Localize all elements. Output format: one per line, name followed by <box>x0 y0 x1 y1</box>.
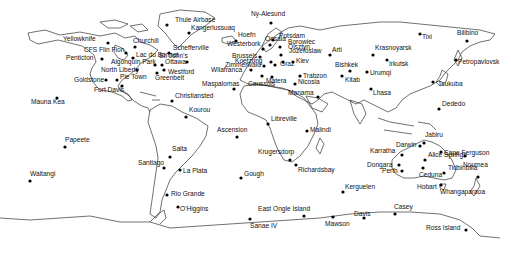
station-label: Darwin <box>396 141 417 148</box>
station-label: Noumea <box>463 161 488 168</box>
station-label: Whangaparaoa <box>440 188 485 196</box>
station-label: Rio Grande <box>171 190 205 197</box>
station-label: Tsukuba <box>438 80 463 87</box>
station-marker: Fort Davis <box>94 84 125 93</box>
station-dot <box>104 78 107 81</box>
station-label: Christiansted <box>175 92 214 99</box>
station-label: Kourou <box>189 106 211 113</box>
station-marker: Kourou <box>184 106 210 119</box>
station-label: Irkutsk <box>389 60 409 67</box>
station-marker: Lhasa <box>369 87 391 96</box>
stations: Thule AirbaseNy-AlesundKangerlussuaqHoef… <box>28 10 500 232</box>
station-label: Davis <box>354 210 371 217</box>
station-dot <box>423 158 426 161</box>
station-label: O'Higgins <box>180 205 209 213</box>
coast-arctic-islands <box>100 20 148 32</box>
station-label: Churchill <box>133 37 159 44</box>
station-label: Libreville <box>271 115 297 122</box>
station-label: Ceduna <box>419 171 442 178</box>
station-marker: Nicosia <box>293 78 320 86</box>
station-marker: Ceduna <box>419 166 442 178</box>
station-dot <box>133 45 136 48</box>
station-dot <box>165 193 168 196</box>
station-dot <box>260 74 263 77</box>
station-marker: Sanae IV <box>248 217 277 229</box>
station-marker: Waitangi <box>28 170 56 183</box>
coast-caribbean <box>140 92 160 100</box>
station-marker: Hobart <box>417 183 443 190</box>
station-dot <box>232 87 235 90</box>
station-label: Jozefoslaw <box>289 47 322 54</box>
station-label: Jabiru <box>425 131 443 138</box>
station-label: Lhasa <box>373 89 391 96</box>
station-dot <box>418 144 421 147</box>
station-dot <box>463 154 466 157</box>
station-dot <box>316 95 319 98</box>
station-label: Sanae IV <box>250 222 278 229</box>
station-dot <box>28 179 31 182</box>
station-marker: Maspalomas <box>202 80 240 91</box>
station-marker: Goldstone <box>74 76 108 83</box>
station-label: Richardsbay <box>298 166 335 174</box>
station-dot <box>439 183 442 186</box>
station-label: Waitangi <box>30 170 56 178</box>
station-dot <box>365 70 368 73</box>
station-dot <box>269 60 272 63</box>
station-dot <box>168 155 171 158</box>
station-marker: Ascension <box>217 126 248 139</box>
station-dot <box>431 80 434 83</box>
station-marker: Petropavlovsk <box>454 58 500 66</box>
station-label: Arti <box>332 46 342 53</box>
coast-india <box>350 100 366 124</box>
station-label: Salta <box>172 145 187 152</box>
station-dot <box>465 39 468 42</box>
station-label: Tixi <box>422 33 433 40</box>
station-marker: Tsukuba <box>431 80 462 87</box>
station-dot <box>165 23 168 26</box>
station-dot <box>162 166 165 169</box>
station-marker: Kerguelen <box>341 183 375 194</box>
station-marker: Ross Island <box>426 224 468 232</box>
station-label: Maspalomas <box>202 80 240 88</box>
station-marker: Ottawa <box>160 58 186 67</box>
station-dot <box>371 53 374 56</box>
station-label: Caussols <box>248 80 276 87</box>
station-label: Santiago <box>138 159 164 167</box>
station-dot <box>273 63 276 66</box>
station-label: Malindi <box>310 126 331 133</box>
station-label: Manama <box>288 89 314 96</box>
station-marker: Mauna Kea <box>31 96 65 105</box>
station-marker: Bishkek <box>335 61 359 73</box>
station-dot <box>268 43 271 46</box>
station-dot <box>328 53 331 56</box>
station-marker: Rio Grande <box>165 190 205 197</box>
station-dot <box>400 169 403 172</box>
station-label: Gough <box>244 170 264 178</box>
station-marker: Westerbork <box>227 40 265 51</box>
station-label: Petropavlovsk <box>458 58 500 66</box>
station-dot <box>63 145 66 148</box>
station-label: Ross Island <box>426 224 461 231</box>
station-label: Penticton <box>66 54 94 61</box>
station-marker: Graz <box>273 60 294 67</box>
station-label: Nicosia <box>298 78 320 85</box>
station-dot <box>331 215 334 218</box>
station-dot <box>400 153 403 156</box>
station-label: Urumqi <box>370 69 392 77</box>
station-marker: Papeete <box>63 136 89 149</box>
station-label: Krugersdorp <box>258 148 295 156</box>
station-label: Pie Town <box>120 73 147 80</box>
station-label: Kiev <box>296 57 310 64</box>
coast-madagascar <box>316 138 324 154</box>
station-label: Bilibino <box>457 29 479 36</box>
station-label: Ottawa <box>165 58 186 65</box>
station-label: Bishkek <box>335 61 359 68</box>
station-label: Fort Davis <box>94 86 125 93</box>
station-dot <box>266 122 269 125</box>
station-marker: Krasnoyarsk <box>371 44 412 57</box>
station-dot <box>160 63 163 66</box>
station-dot <box>278 45 281 48</box>
station-dot <box>235 135 238 138</box>
station-dot <box>340 74 343 77</box>
station-marker: Libreville <box>266 115 297 126</box>
